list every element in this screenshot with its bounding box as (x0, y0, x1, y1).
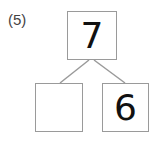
part-right-value: 6 (114, 87, 137, 128)
whole-box: 7 (67, 11, 117, 60)
connector-left (60, 60, 89, 83)
part-box-left[interactable] (35, 83, 83, 132)
part-box-right: 6 (102, 83, 149, 132)
connector-right (94, 60, 125, 83)
whole-value: 7 (81, 15, 104, 56)
